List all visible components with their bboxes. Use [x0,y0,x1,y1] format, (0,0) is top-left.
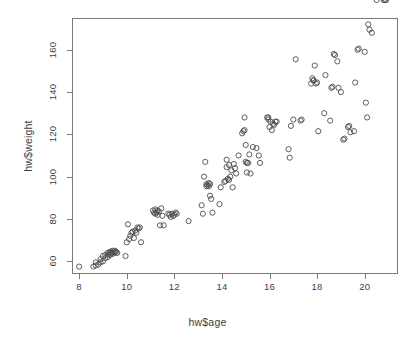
x-tick-mark [270,274,271,279]
x-tick-label: 12 [169,281,180,292]
x-tick-label: 18 [312,281,323,292]
y-tick-label: 100 [47,168,58,184]
plot-frame [72,18,398,274]
x-tick-mark [174,274,175,279]
x-tick-mark [127,274,128,279]
y-tick-mark [67,219,72,220]
y-tick-label: 120 [47,126,58,142]
y-tick-label: 140 [47,84,58,100]
x-tick-label: 10 [121,281,132,292]
data-point [384,0,389,3]
data-point [381,0,386,3]
x-axis-title: hw$age [0,316,415,328]
y-tick-label: 60 [47,256,58,267]
x-tick-mark [317,274,318,279]
x-tick-label: 16 [264,281,275,292]
y-tick-mark [67,261,72,262]
y-tick-mark [67,92,72,93]
x-tick-mark [79,274,80,279]
data-point [382,0,387,3]
y-tick-mark [67,177,72,178]
x-tick-label: 20 [359,281,370,292]
data-point [374,0,379,3]
y-tick-label: 160 [47,41,58,57]
x-tick-mark [222,274,223,279]
y-tick-mark [67,50,72,51]
x-tick-label: 14 [216,281,227,292]
y-axis-title: hw$weight [22,120,34,171]
scatter-plot-figure: 8101214161820 6080100120140160 hw$age hw… [0,0,415,342]
x-tick-label: 8 [76,281,81,292]
y-tick-mark [67,134,72,135]
x-tick-mark [365,274,366,279]
y-tick-label: 80 [47,214,58,225]
